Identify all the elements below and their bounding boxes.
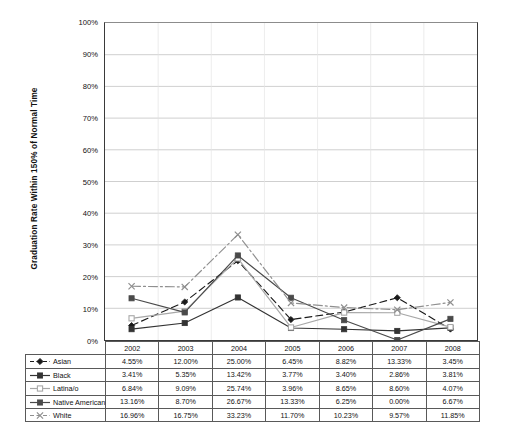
- data-point-marker: [37, 373, 42, 378]
- y-axis-title-text: Graduation Rate Within 150% of Normal Ti…: [30, 87, 39, 269]
- table-cell: 3.41%: [106, 368, 159, 381]
- legend-swatch-native-american-icon: [29, 398, 51, 407]
- data-point-marker: [37, 359, 43, 365]
- y-axis-tick: 60%: [83, 145, 98, 154]
- table-cell: 10.23%: [319, 408, 372, 421]
- table-cell: 13.42%: [212, 368, 265, 381]
- y-axis-tick: 80%: [83, 81, 98, 90]
- plot-area-wrapper: 0%10%20%30%40%50%60%70%80%90%100%: [52, 14, 484, 348]
- table-cell: 6.45%: [266, 355, 319, 368]
- table-row: White16.96%16.75%33.23%11.70%10.23%9.57%…: [26, 408, 480, 421]
- data-point-marker: [129, 296, 134, 301]
- legend-row-native-american[interactable]: Native American: [26, 395, 106, 408]
- table-cell: 8.70%: [159, 395, 212, 408]
- data-point-marker: [129, 327, 134, 332]
- legend-label: Latina/o: [53, 384, 79, 393]
- data-point-marker: [395, 328, 400, 333]
- table-cell: 8.65%: [319, 382, 372, 395]
- table-cell: 16.75%: [159, 408, 212, 421]
- legend-label: White: [53, 411, 71, 420]
- data-point-marker: [182, 310, 187, 315]
- data-point-marker: [182, 320, 187, 325]
- table-cell: 5.35%: [159, 368, 212, 381]
- table-cell: 0.00%: [373, 395, 426, 408]
- y-axis-title: Graduation Rate Within 150% of Normal Ti…: [24, 18, 44, 338]
- data-point-marker: [395, 337, 400, 340]
- legend-row-latina-o[interactable]: Latina/o: [26, 382, 106, 395]
- table-cell: 8.82%: [319, 355, 372, 368]
- data-point-marker: [342, 318, 347, 323]
- table-cell: 8.60%: [373, 382, 426, 395]
- table-cell: 13.33%: [373, 355, 426, 368]
- table-cell: 3.45%: [426, 355, 479, 368]
- legend-swatch-black-icon: [29, 371, 51, 380]
- data-point-marker: [288, 325, 293, 330]
- legend-label: Native American: [53, 398, 105, 407]
- y-axis-tick: 90%: [83, 49, 98, 58]
- table-cell: 6.84%: [106, 382, 159, 395]
- table-cell: 26.67%: [212, 395, 265, 408]
- table-row: Native American13.16%8.70%26.67%13.33%6.…: [26, 395, 480, 408]
- table-cell: 6.25%: [319, 395, 372, 408]
- table-row: Latina/o6.84%9.09%25.74%3.96%8.65%8.60%4…: [26, 382, 480, 395]
- table-cell: 25.00%: [212, 355, 265, 368]
- table-row: Black3.41%5.35%13.42%3.77%3.40%2.86%3.81…: [26, 368, 480, 381]
- y-axis-tick-labels: 0%10%20%30%40%50%60%70%80%90%100%: [52, 14, 104, 334]
- table-cell: 9.57%: [373, 408, 426, 421]
- table-cell: 13.16%: [106, 395, 159, 408]
- chart-page: Graduation Rate Within 150% of Normal Ti…: [0, 0, 507, 429]
- legend-label: Black: [53, 371, 71, 380]
- table-cell: 16.96%: [106, 408, 159, 421]
- data-point-marker: [448, 325, 453, 330]
- table-cell: 3.77%: [266, 368, 319, 381]
- y-axis-tick: 30%: [83, 241, 98, 250]
- table-column-header: 2003: [159, 342, 212, 355]
- table-cell: 33.23%: [212, 408, 265, 421]
- table-body: Asian4.55%12.00%25.00%6.45%8.82%13.33%3.…: [26, 355, 480, 422]
- table-cell: 3.81%: [426, 368, 479, 381]
- table-cell: 6.67%: [426, 395, 479, 408]
- table-column-header: 2004: [212, 342, 265, 355]
- y-axis-tick: 70%: [83, 113, 98, 122]
- y-axis-tick: 100%: [79, 18, 98, 27]
- y-axis-tick: 50%: [83, 177, 98, 186]
- table-cell: 12.00%: [159, 355, 212, 368]
- data-table: 2002200320042005200620072008 Asian4.55%1…: [25, 341, 480, 422]
- legend-swatch-asian-icon: [29, 357, 51, 366]
- data-point-marker: [394, 295, 400, 301]
- chart-svg: [105, 23, 477, 340]
- legend-swatch-latina-o-icon: [29, 384, 51, 393]
- table-column-header: 2008: [426, 342, 479, 355]
- table-corner-cell: [26, 342, 106, 355]
- table-cell: 13.33%: [266, 395, 319, 408]
- data-point-marker: [448, 316, 453, 321]
- data-point-marker: [235, 295, 240, 300]
- data-point-marker: [37, 399, 42, 404]
- legend-row-black[interactable]: Black: [26, 368, 106, 381]
- table-cell: 3.40%: [319, 368, 372, 381]
- legend-swatch-white-icon: [29, 411, 51, 420]
- legend-row-white[interactable]: White: [26, 408, 106, 421]
- table-column-header: 2002: [106, 342, 159, 355]
- data-point-marker: [235, 253, 240, 258]
- legend-row-asian[interactable]: Asian: [26, 355, 106, 368]
- y-axis-tick: 40%: [83, 209, 98, 218]
- table-cell: 11.70%: [266, 408, 319, 421]
- table-cell: 11.85%: [426, 408, 479, 421]
- data-point-marker: [235, 232, 241, 238]
- table-cell: 9.09%: [159, 382, 212, 395]
- data-point-marker: [288, 295, 293, 300]
- table-header-row: 2002200320042005200620072008: [26, 342, 480, 355]
- table-row: Asian4.55%12.00%25.00%6.45%8.82%13.33%3.…: [26, 355, 480, 368]
- table-column-header: 2007: [373, 342, 426, 355]
- table-cell: 25.74%: [212, 382, 265, 395]
- data-table-wrapper: 2002200320042005200620072008 Asian4.55%1…: [25, 341, 480, 422]
- data-point-marker: [342, 327, 347, 332]
- y-axis-tick: 10%: [83, 305, 98, 314]
- data-point-marker: [37, 386, 42, 391]
- table-cell: 3.96%: [266, 382, 319, 395]
- data-point-marker: [342, 310, 347, 315]
- y-axis-tick: 20%: [83, 273, 98, 282]
- data-point-marker: [129, 316, 134, 321]
- table-cell: 4.55%: [106, 355, 159, 368]
